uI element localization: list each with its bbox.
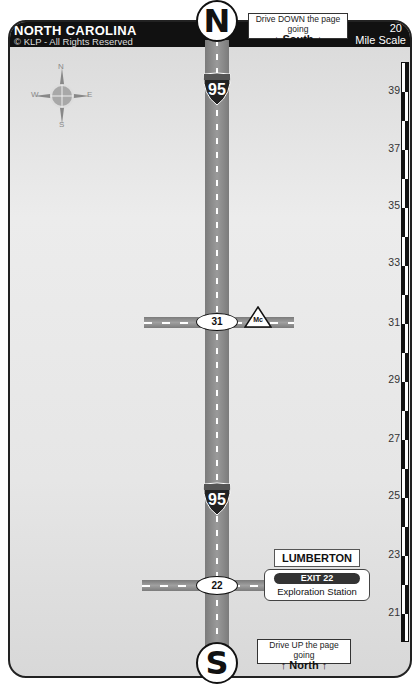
compass-w: W (31, 90, 39, 99)
scale-mark: 27 (380, 432, 400, 444)
shield-top-number: 95 (202, 81, 232, 99)
exit-22-stop: Exploration Station (265, 586, 369, 597)
direction-north-text: Drive UP the page going (258, 640, 350, 660)
compass-e: E (87, 90, 92, 99)
scale-mark: 37 (380, 142, 400, 154)
mc-sign-label: Mc (250, 316, 266, 323)
south-marker: S (196, 642, 238, 684)
scale-mark: 29 (380, 373, 400, 385)
scale-mark: 21 (380, 606, 400, 618)
arrow-up-icon: ↑ (281, 659, 287, 671)
scale-mark: 23 (380, 548, 400, 560)
scale-mark: 39 (380, 84, 400, 96)
highway-i95 (205, 40, 229, 665)
scale-mark: 35 (380, 199, 400, 211)
mile-scale-bar (401, 62, 409, 642)
exit-22-label: EXIT 22 (274, 573, 360, 584)
arrow-up-icon: ↑ (322, 659, 328, 671)
direction-north-box: Drive UP the page going ↑ North ↑ (257, 639, 351, 664)
direction-north-label: North (289, 659, 318, 671)
direction-south-text: Drive DOWN the page going (249, 14, 347, 34)
exit-22-info-box[interactable]: EXIT 22 Exploration Station (264, 569, 370, 601)
direction-south-box: Drive DOWN the page going ↓ South ↓ (248, 13, 348, 39)
mile-scale-label: Mile Scale (355, 34, 406, 46)
scale-mark: 33 (380, 256, 400, 268)
compass-rose-icon (30, 64, 94, 128)
shield-bottom-number: 95 (202, 491, 232, 509)
compass-s: S (59, 120, 64, 129)
scale-mark: 31 (380, 316, 400, 328)
direction-south-label: South (282, 33, 313, 45)
arrow-down-icon: ↓ (317, 33, 323, 45)
exit-31-marker[interactable]: 31 (196, 313, 238, 331)
scale-mark: 25 (380, 489, 400, 501)
city-label-lumberton: LUMBERTON (274, 549, 360, 567)
arrow-down-icon: ↓ (274, 33, 280, 45)
exit-22-marker[interactable]: 22 (196, 576, 238, 595)
north-marker: N (196, 0, 238, 42)
mile-scale-number: 20 (390, 22, 402, 34)
compass-n: N (58, 62, 64, 71)
copyright: © KLP - All Rights Reserved (14, 36, 133, 47)
